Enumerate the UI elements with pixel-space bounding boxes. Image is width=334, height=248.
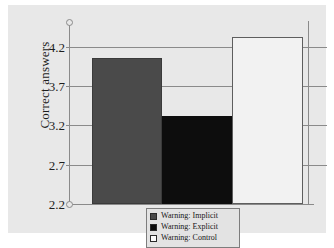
bar-warning-control <box>232 37 303 204</box>
right-tick-4-2 <box>308 47 327 48</box>
chart-figure: 4.2 3.7 3.2 2.7 2.2 Correct answers <box>0 0 334 248</box>
chart-legend: Warning: Implicit Warning: Explicit Warn… <box>146 208 240 248</box>
legend-label-implicit: Warning: Implicit <box>161 212 218 220</box>
chart-panel: 4.2 3.7 3.2 2.7 2.2 Correct answers <box>8 5 326 233</box>
legend-swatch-control <box>150 235 157 242</box>
x-axis-spine <box>69 204 314 205</box>
legend-swatch-implicit <box>150 213 157 220</box>
bar-warning-explicit <box>162 116 232 204</box>
legend-item-explicit: Warning: Explicit <box>150 222 236 232</box>
bar-warning-implicit <box>92 58 162 204</box>
right-tick-3-2 <box>308 125 327 126</box>
y-tick-label-2-2: 2.2 <box>11 198 65 211</box>
y-axis-title: Correct answers <box>37 30 53 140</box>
y-tick-label-2-7: 2.7 <box>11 159 65 172</box>
right-tick-3-7 <box>308 86 327 87</box>
plot-area <box>69 21 309 204</box>
legend-item-control: Warning: Control <box>150 233 236 243</box>
right-tick-2-7 <box>308 165 327 166</box>
legend-item-implicit: Warning: Implicit <box>150 211 236 221</box>
legend-label-control: Warning: Control <box>161 234 217 242</box>
legend-swatch-explicit <box>150 224 157 231</box>
legend-label-explicit: Warning: Explicit <box>161 223 218 231</box>
